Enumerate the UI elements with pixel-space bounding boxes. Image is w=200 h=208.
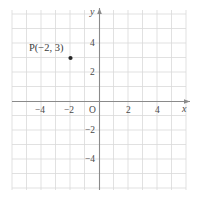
x-tick-label-4: 4 — [155, 106, 160, 116]
coordinate-grid-svg — [0, 0, 200, 208]
data-point-P — [68, 56, 72, 60]
origin-label: O — [89, 106, 96, 116]
y-tick-label-neg2: −2 — [85, 126, 95, 136]
y-tick-label-2: 2 — [90, 68, 95, 78]
y-tick-label-4: 4 — [90, 39, 95, 49]
y-tick-label-neg4: −4 — [85, 155, 95, 165]
x-axis-label: x — [182, 104, 186, 114]
y-axis-label: y — [90, 7, 94, 17]
x-tick-label-neg4: −4 — [35, 106, 45, 116]
x-tick-label-2: 2 — [126, 106, 131, 116]
y-axis — [97, 8, 102, 190]
x-tick-label-neg2: −2 — [64, 106, 74, 116]
x-axis — [12, 99, 190, 104]
coordinate-plane-figure: −4 −2 2 4 O 4 2 −2 −4 x y P(−2, 3) — [0, 0, 200, 208]
data-point-label-P: P(−2, 3) — [29, 43, 64, 54]
